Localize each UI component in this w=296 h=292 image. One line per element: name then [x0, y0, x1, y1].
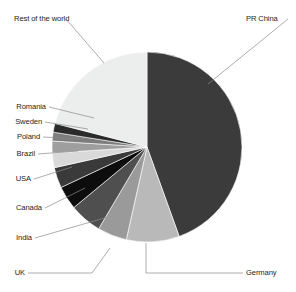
label-sweden: Sweden: [15, 117, 42, 126]
label-brazil: Brazil: [17, 149, 36, 158]
pie-chart-figure: Rest of the world PR China Romania Swede…: [0, 0, 296, 292]
label-romania: Romania: [16, 102, 47, 111]
label-india: India: [16, 233, 33, 242]
leader-line-rest-of-the-world: [66, 19, 104, 63]
label-uk: UK: [15, 268, 25, 277]
label-poland: Poland: [17, 132, 40, 141]
leader-line-uk: [28, 248, 110, 273]
pie-slices: [52, 52, 242, 242]
label-pr-china: PR China: [246, 14, 279, 23]
leader-line-pr-china: [208, 19, 288, 84]
label-rest-of-the-world: Rest of the world: [14, 14, 69, 23]
label-usa: USA: [16, 174, 32, 183]
leader-line-germany: [146, 243, 243, 273]
label-canada: Canada: [16, 203, 43, 212]
label-germany: Germany: [246, 268, 277, 277]
pie-chart-svg: Rest of the world PR China Romania Swede…: [0, 0, 296, 292]
